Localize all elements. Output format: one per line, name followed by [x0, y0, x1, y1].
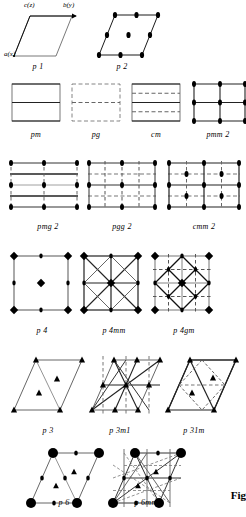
- caption-pm: pm: [18, 130, 54, 139]
- caption-p4mm: p 4mm: [92, 326, 136, 335]
- row2-diagrams: [0, 80, 246, 126]
- caption-cmm2: cmm 2: [182, 222, 226, 231]
- caption-pmg2: pmg 2: [26, 222, 70, 231]
- axis-label-c: c(z): [24, 1, 35, 9]
- cell-cm: [132, 84, 180, 121]
- caption-p6: p 6: [44, 498, 84, 507]
- cell-p4: [10, 252, 72, 314]
- row5-diagrams: [0, 352, 246, 422]
- caption-pg: pg: [78, 130, 114, 139]
- caption-pgg2: pgg 2: [100, 222, 144, 231]
- axis-label-a: a(x): [4, 50, 15, 58]
- caption-p6mm: p 6mm: [124, 498, 168, 507]
- cell-pmg2: [9, 160, 79, 210]
- caption-pmm2: pmm 2: [196, 130, 240, 139]
- row6-diagrams: [0, 445, 246, 513]
- caption-cm: cm: [138, 130, 174, 139]
- cell-cmm2: [167, 160, 241, 210]
- figure-number-tag: Fig: [231, 489, 246, 501]
- caption-p4: p 4: [22, 326, 62, 335]
- cell-pgg2: [87, 160, 157, 210]
- cell-p3: [11, 357, 85, 413]
- caption-p4gm: p 4gm: [162, 326, 206, 335]
- cell-p1: [13, 16, 76, 57]
- cell-p2: [97, 12, 160, 58]
- axis-label-b: b(y): [63, 1, 74, 9]
- caption-p3m1: p 3m1: [98, 426, 142, 435]
- cell-pm: [12, 84, 60, 121]
- caption-p3: p 3: [28, 426, 68, 435]
- cell-pmm2: [192, 81, 246, 124]
- cell-p31m: [165, 357, 239, 413]
- plane-groups-figure: c(z) b(y) a(x) p 1 p 2: [0, 0, 246, 517]
- two-fold-markers-p2: [97, 12, 160, 58]
- cell-p4gm: [151, 252, 213, 314]
- row4-diagrams: [0, 248, 246, 320]
- cell-p4mm: [80, 252, 142, 314]
- caption-p1: p 1: [20, 62, 56, 71]
- cell-p3m1: [89, 356, 163, 414]
- cell-pg: [72, 84, 120, 121]
- caption-p31m: p 31m: [172, 426, 216, 435]
- row3-diagrams: [0, 157, 246, 215]
- caption-p2: p 2: [104, 62, 140, 71]
